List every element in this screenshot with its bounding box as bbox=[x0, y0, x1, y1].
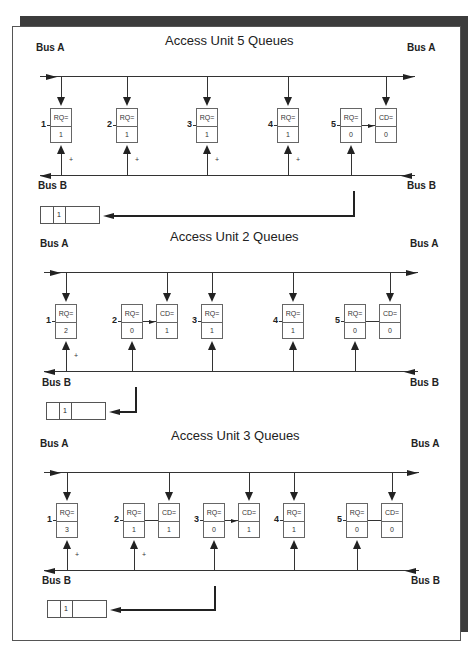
counter-label: RQ= bbox=[124, 504, 144, 522]
request-counter: RQ=1 bbox=[50, 108, 72, 143]
access-unit-number: 3 bbox=[192, 315, 197, 325]
arrow-down-icon bbox=[57, 97, 65, 106]
counter-value: 1 bbox=[283, 323, 303, 339]
request-counter: RQ=1 bbox=[123, 503, 145, 538]
bus-a-label-right: Bus A bbox=[407, 42, 436, 53]
request-counter: RQ=1 bbox=[201, 304, 223, 339]
bus-a-arrow-in bbox=[50, 270, 61, 276]
bus-b-tap bbox=[351, 153, 352, 175]
counter-label: CD= bbox=[159, 504, 179, 522]
arrow-down-icon bbox=[63, 492, 71, 501]
arrow-down-icon bbox=[284, 97, 292, 106]
bus-a-label-left: Bus A bbox=[36, 42, 65, 53]
request-counter: RQ=1 bbox=[196, 108, 218, 143]
bus-a-arrow-out bbox=[406, 270, 417, 276]
access-unit-number: 2 bbox=[114, 514, 119, 524]
counter-label: CD= bbox=[157, 305, 177, 323]
arrow-up-icon bbox=[351, 341, 359, 350]
counter-value: 1 bbox=[239, 522, 259, 538]
arrow-down-icon bbox=[386, 293, 394, 302]
bus-b-label-right: Bus B bbox=[411, 575, 440, 586]
counter-label: RQ= bbox=[51, 109, 71, 127]
bus-a-tap bbox=[294, 472, 295, 493]
counter-value: 0 bbox=[347, 522, 367, 538]
counter-label: CD= bbox=[239, 504, 259, 522]
access-unit-number: 2 bbox=[107, 119, 112, 129]
request-counter: RQ=0 bbox=[121, 304, 143, 339]
bus-b-tap bbox=[66, 349, 67, 371]
counter-value: 1 bbox=[278, 127, 298, 143]
arrow-left-icon bbox=[103, 213, 114, 219]
counter-label: RQ= bbox=[57, 504, 77, 522]
bus-b-tap bbox=[132, 349, 133, 371]
access-unit-number: 3 bbox=[194, 514, 199, 524]
request-counter: RQ=1 bbox=[283, 503, 305, 538]
arrow-left-icon bbox=[109, 409, 120, 415]
countdown-counter: CD=0 bbox=[375, 108, 397, 143]
request-counter: RQ=1 bbox=[277, 108, 299, 143]
bus-b-line bbox=[44, 371, 418, 372]
bus-a-tap bbox=[249, 472, 250, 493]
unit-tick bbox=[53, 520, 56, 521]
bus-a-label-right: Bus A bbox=[410, 238, 439, 249]
counter-label: RQ= bbox=[122, 305, 142, 323]
counter-label: RQ= bbox=[345, 305, 365, 323]
plus-sign: + bbox=[75, 551, 79, 558]
section-title: Access Unit 2 Queues bbox=[170, 229, 299, 244]
bus-b-tap bbox=[214, 548, 215, 570]
bus-b-line bbox=[40, 175, 415, 176]
arrow-right-icon bbox=[149, 320, 155, 324]
return-path-vertical bbox=[135, 387, 137, 411]
bus-b-tap bbox=[67, 548, 68, 570]
counter-value: 0 bbox=[376, 127, 396, 143]
bus-a-tap bbox=[127, 76, 128, 98]
bus-a-tap bbox=[386, 76, 387, 98]
counter-value: 1 bbox=[159, 522, 179, 538]
arrow-down-icon bbox=[289, 293, 297, 302]
queue-slot-value: 1 bbox=[59, 403, 72, 419]
access-unit-number: 5 bbox=[331, 119, 336, 129]
bus-a-tap bbox=[61, 76, 62, 98]
bus-a-tap bbox=[288, 76, 289, 98]
bus-a-label-left: Bus A bbox=[40, 238, 69, 249]
access-unit-number: 2 bbox=[112, 315, 117, 325]
request-counter: RQ=0 bbox=[340, 108, 362, 143]
bus-a-arrow-in bbox=[46, 74, 57, 80]
arrow-right-icon bbox=[368, 124, 374, 128]
counter-value: 1 bbox=[157, 323, 177, 339]
plus-sign: + bbox=[215, 156, 219, 163]
bus-b-label-left: Bus B bbox=[42, 377, 71, 388]
unit-tick bbox=[52, 321, 55, 322]
access-unit-number: 1 bbox=[41, 119, 46, 129]
counter-label: RQ= bbox=[284, 504, 304, 522]
counter-value: 0 bbox=[345, 323, 365, 339]
bus-a-tap bbox=[293, 272, 294, 294]
arrow-up-icon bbox=[284, 145, 292, 154]
arrow-up-icon bbox=[208, 341, 216, 350]
bus-b-tap bbox=[134, 548, 135, 570]
frame-shadow-right bbox=[460, 16, 468, 632]
counter-value: 0 bbox=[204, 522, 224, 538]
bus-b-tap bbox=[212, 349, 213, 371]
counter-value: 1 bbox=[124, 522, 144, 538]
arrow-down-icon bbox=[208, 293, 216, 302]
counter-value: 1 bbox=[51, 127, 71, 143]
bus-b-label-left: Bus B bbox=[42, 575, 71, 586]
unit-tick bbox=[120, 520, 123, 521]
counter-label: RQ= bbox=[204, 504, 224, 522]
unit-tick bbox=[118, 321, 121, 322]
countdown-counter: CD=1 bbox=[158, 503, 180, 538]
counter-value: 0 bbox=[382, 522, 402, 538]
bus-b-label-right: Bus B bbox=[410, 377, 439, 388]
bus-a-tap bbox=[169, 472, 170, 493]
bus-a-arrow-out bbox=[407, 470, 418, 476]
arrow-up-icon bbox=[123, 145, 131, 154]
arrow-left-icon bbox=[110, 607, 121, 613]
section-title: Access Unit 3 Queues bbox=[171, 428, 300, 443]
bus-b-tap bbox=[288, 153, 289, 175]
bus-a-arrow-out bbox=[403, 74, 414, 80]
counter-label: RQ= bbox=[202, 305, 222, 323]
bus-b-line bbox=[44, 570, 419, 571]
arrow-down-icon bbox=[203, 97, 211, 106]
counter-value: 3 bbox=[57, 522, 77, 538]
